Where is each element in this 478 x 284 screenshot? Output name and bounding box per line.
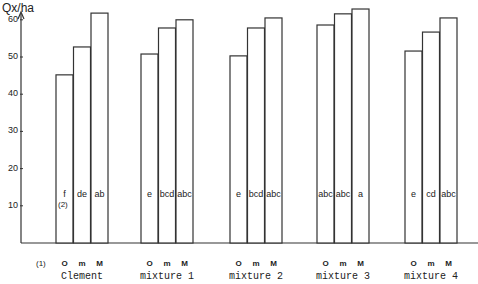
category-label: mixture 4 xyxy=(391,271,471,282)
bar xyxy=(352,9,369,243)
bars xyxy=(56,9,457,243)
chart-svg xyxy=(0,0,478,284)
footnote-1: (1) xyxy=(36,259,46,268)
sub-category-label: O xyxy=(56,259,73,268)
sub-category-label: M xyxy=(176,259,193,268)
bar xyxy=(141,54,158,243)
sub-category-label: m xyxy=(74,259,91,268)
sub-category-label: m xyxy=(159,259,176,268)
category-label: mixture 2 xyxy=(216,271,296,282)
significance-letter: bcd xyxy=(248,189,265,199)
significance-letter: de xyxy=(74,189,91,199)
significance-letter: f xyxy=(56,189,73,199)
sub-category-label: M xyxy=(91,259,108,268)
significance-letter: a xyxy=(352,189,369,199)
significance-letter: e xyxy=(141,189,158,199)
bar xyxy=(56,75,73,243)
significance-letter: abc xyxy=(176,189,193,199)
y-tick-label: 60 xyxy=(0,14,18,24)
bar xyxy=(265,18,282,243)
sub-category-label: O xyxy=(405,259,422,268)
y-tick-label: 10 xyxy=(0,200,18,210)
category-label: mixture 1 xyxy=(127,271,207,282)
sub-category-label: m xyxy=(248,259,265,268)
significance-letter: ab xyxy=(91,189,108,199)
sub-category-label: M xyxy=(440,259,457,268)
y-tick-label: 20 xyxy=(0,163,18,173)
sub-category-label: M xyxy=(352,259,369,268)
bar xyxy=(159,28,176,243)
sub-category-label: O xyxy=(317,259,334,268)
significance-letter: bcd xyxy=(159,189,176,199)
sub-category-label: M xyxy=(265,259,282,268)
y-tick-label: 40 xyxy=(0,88,18,98)
bar xyxy=(335,14,352,243)
significance-letter: abc xyxy=(335,189,352,199)
bar xyxy=(317,25,334,243)
bar xyxy=(91,13,108,243)
sub-category-label: O xyxy=(141,259,158,268)
y-tick-label: 50 xyxy=(0,51,18,61)
bar xyxy=(423,32,440,243)
bar xyxy=(248,28,265,243)
category-label: Clement xyxy=(42,271,122,282)
significance-letter: cd xyxy=(423,189,440,199)
sub-category-label: m xyxy=(335,259,352,268)
bar xyxy=(440,18,457,243)
bar xyxy=(230,56,247,243)
significance-letter: e xyxy=(405,189,422,199)
significance-letter: abc xyxy=(440,189,457,199)
significance-letter: abc xyxy=(265,189,282,199)
bar xyxy=(74,47,91,243)
significance-letter: abc xyxy=(317,189,334,199)
category-label: mixture 3 xyxy=(303,271,383,282)
bar xyxy=(405,51,422,243)
y-tick-label: 30 xyxy=(0,125,18,135)
bar xyxy=(176,20,193,243)
sub-category-label: O xyxy=(230,259,247,268)
footnote-2: (2) xyxy=(58,200,68,209)
significance-letter: e xyxy=(230,189,247,199)
bar-chart: Qx/ha 102030405060fOdemabMClementeObcdma… xyxy=(0,0,478,284)
sub-category-label: m xyxy=(423,259,440,268)
